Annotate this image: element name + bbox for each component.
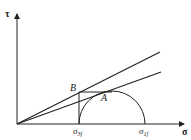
sigma1f-sub: 1f: [143, 131, 149, 137]
mohr-circle-diagram: τ σ B A σ3f σ1f: [0, 0, 191, 140]
sigma3f-label: σ3f: [73, 126, 83, 137]
tau-axis-label: τ: [5, 8, 10, 19]
sigma1f-label: σ1f: [139, 126, 149, 137]
lower-envelope-line: [17, 72, 161, 124]
upper-envelope-line: [17, 52, 160, 124]
mohr-semicircle: [79, 91, 145, 124]
point-a-label: A: [100, 92, 108, 103]
sigma3f-sub: 3f: [76, 131, 83, 137]
sigma-axis-label: σ: [182, 126, 188, 137]
point-b-label: B: [70, 82, 76, 93]
